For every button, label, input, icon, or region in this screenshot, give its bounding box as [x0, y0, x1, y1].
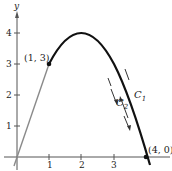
line-segment [14, 64, 49, 166]
c1-upper-arrow-icon [125, 69, 129, 80]
y-axis-arrow-icon [15, 11, 19, 18]
y-tick-label-3: 3 [6, 59, 12, 69]
c2-label: C2 [116, 97, 129, 111]
y-tick-label-4: 4 [6, 28, 12, 38]
x-tick-label-2: 2 [79, 160, 85, 170]
c2-upper-tick-icon [108, 78, 111, 86]
point-label-4-0: (4, 0) [148, 144, 172, 155]
c2-lower-arrow-icon [124, 116, 131, 131]
y-tick-label-2: 2 [6, 90, 12, 100]
point-4-0 [144, 155, 149, 160]
c1-label: C1 [134, 89, 146, 103]
diagram-canvas: 1 2 3 1 2 3 4 y (1, 3) (4, 0) C1 C2 [0, 0, 172, 171]
y-tick-label-1: 1 [6, 121, 12, 131]
y-axis-label: y [13, 1, 20, 11]
x-tick-label-3: 3 [111, 160, 117, 170]
point-label-1-3: (1, 3) [24, 52, 50, 63]
x-tick-label-1: 1 [47, 160, 53, 170]
